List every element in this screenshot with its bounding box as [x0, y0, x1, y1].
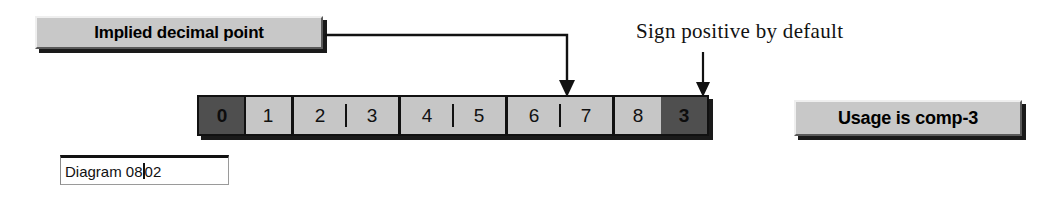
callout-usage-comp3-label: Usage is comp-3 [838, 108, 978, 129]
byte-group-2[interactable]: 2 3 [292, 95, 399, 136]
nibble-cell-3[interactable]: 3 [346, 97, 398, 134]
byte-group-4[interactable]: 6 7 [506, 95, 613, 136]
nibble-cell-8[interactable]: 8 [615, 97, 661, 134]
caption-text-before-caret: Diagram 08 [65, 163, 143, 180]
nibble-cell-5[interactable]: 5 [453, 97, 505, 134]
callout-implied-decimal-label: Implied decimal point [94, 23, 264, 43]
byte-group-1[interactable]: 0 1 [197, 95, 292, 136]
nibble-cell-6[interactable]: 6 [508, 97, 560, 134]
callout-implied-decimal-point[interactable]: Implied decimal point [35, 16, 323, 49]
caption-text-after-caret: 02 [145, 163, 162, 180]
caption-text-field[interactable]: Diagram 0802 [60, 155, 229, 185]
nibble-cell-4[interactable]: 4 [401, 97, 453, 134]
nibble-cell-1[interactable]: 1 [245, 97, 291, 134]
annotation-sign-positive: Sign positive by default [636, 19, 843, 44]
nibble-cell-7[interactable]: 7 [560, 97, 612, 134]
nibble-cell-sign[interactable]: 3 [661, 97, 707, 134]
byte-group-5[interactable]: 8 3 [613, 95, 709, 136]
nibble-strip: 0 1 2 3 4 5 6 7 8 3 [197, 95, 709, 136]
callout-usage-comp3[interactable]: Usage is comp-3 [794, 100, 1022, 136]
diagram-canvas: Implied decimal point Sign positive by d… [0, 0, 1041, 197]
nibble-cell-0[interactable]: 0 [199, 97, 245, 134]
nibble-cell-2[interactable]: 2 [294, 97, 346, 134]
byte-group-3[interactable]: 4 5 [399, 95, 506, 136]
leader-line-sign-positive [696, 52, 710, 97]
leader-line-implied-decimal [325, 35, 575, 97]
